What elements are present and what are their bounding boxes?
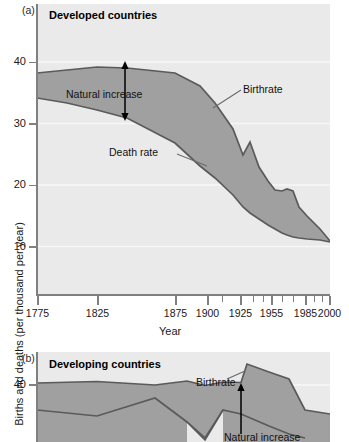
plot-area-a [37,4,330,294]
x-tick-label-2000: 2000 [307,307,349,319]
y-tick-10-a [29,246,37,248]
y-tick-40-b [29,384,37,386]
y-tick-label-40-a: 40 [0,55,26,67]
annotation-death-rate-a: Death rate [109,146,158,158]
x-axis-line-a [36,294,330,296]
x-tick-2000 [329,296,331,305]
y-tick-label-40-b: 40 [0,378,26,390]
annotation-birthrate-a: Birthrate [243,83,283,95]
y-tick-label-30-a: 30 [0,117,26,129]
x-tick-minor-1965 [282,296,283,302]
y-tick-40-a [29,62,37,64]
y-tick-label-10-a: 10 [0,240,26,252]
annotation-birthrate-b: Birthrate [196,376,236,388]
y-tick-30-a [29,123,37,125]
x-tick-minor-1945 [263,296,264,302]
x-tick-1775 [37,296,39,305]
plot-svg-a [37,4,330,294]
x-tick-1825 [97,296,99,305]
x-axis-caption-a: Year [159,325,181,337]
demographic-transition-figure: Births and deaths (per thousand per year… [0,0,349,442]
y-tick-label-20-a: 20 [0,178,26,190]
birthrate-leader-line-a [213,90,241,108]
y-axis-line-a [36,4,38,296]
x-tick-1875 [175,296,177,305]
x-tick-minor-1975 [293,296,294,302]
x-tick-label-1775: 1775 [15,307,60,319]
x-tick-1900 [207,296,209,305]
x-tick-minor-1990 [314,296,315,302]
x-tick-1925 [240,296,242,305]
x-tick-1985 [305,296,307,305]
panel-developing-countries: (b) Developing countr [0,352,349,442]
x-tick-label-1825: 1825 [75,307,120,319]
panel-developed-countries: (a) [0,0,349,345]
x-tick-1955 [271,296,273,305]
panel-b-title: Developing countries [49,358,161,370]
y-axis-line-b [36,352,38,442]
panel-b-tag: (b) [22,352,35,364]
x-tick-minor-1910 [222,296,223,302]
panel-a-tag: (a) [22,4,35,16]
panel-a-title: Developed countries [49,9,157,21]
annotation-natural-increase-a: Natural increase [66,88,142,100]
y-tick-20-a [29,185,37,187]
annotation-natural-increase-b: Natural increase [224,431,300,442]
x-tick-minor-1935 [253,296,254,302]
x-tick-minor-1995 [322,296,323,302]
